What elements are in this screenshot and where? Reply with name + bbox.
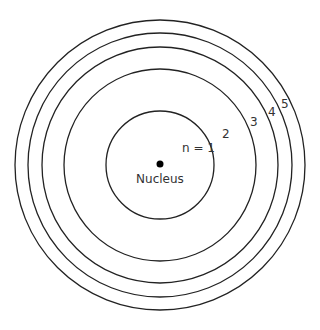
orbit-label-1: n = 1 — [182, 141, 215, 155]
orbit-label-2: 2 — [222, 127, 230, 141]
orbit-label-4: 4 — [268, 105, 276, 119]
orbit-label-3: 3 — [250, 115, 258, 129]
nucleus-dot — [157, 161, 164, 168]
bohr-orbit-diagram: Nucleus n = 1 2 3 4 5 — [0, 0, 320, 330]
orbit-label-5: 5 — [281, 97, 289, 111]
nucleus-label: Nucleus — [136, 172, 184, 186]
